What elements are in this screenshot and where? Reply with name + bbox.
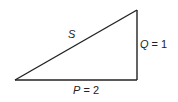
right-triangle-diagram: S Q = 1 P = 2 xyxy=(0,0,178,102)
side-s-hypotenuse xyxy=(15,10,137,80)
label-q-value: = 1 xyxy=(149,38,168,50)
label-p: P = 2 xyxy=(73,84,99,96)
label-q: Q = 1 xyxy=(140,38,167,50)
label-s: S xyxy=(68,28,76,40)
label-p-value: = 2 xyxy=(80,84,99,96)
